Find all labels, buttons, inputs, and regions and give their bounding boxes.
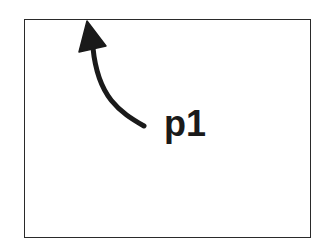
arrow-shaft: [93, 48, 144, 126]
point-label: p1: [164, 104, 206, 144]
arrowhead-icon: [79, 21, 106, 52]
